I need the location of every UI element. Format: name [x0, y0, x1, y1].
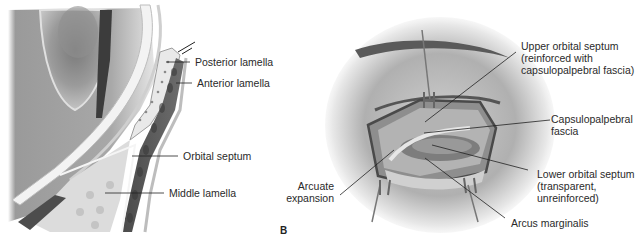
label-upper-orbital-septum: Upper orbital septum (reinforced with ca… [521, 40, 634, 76]
label-capsulopalpebral-fascia: Capsulopalpebral fascia [551, 113, 633, 137]
label-anterior-lamella: Anterior lamella [197, 77, 270, 89]
label-middle-lamella: Middle lamella [169, 187, 236, 199]
eyelid-anatomy-figure: Posterior lamella Anterior lamella Orbit… [0, 0, 639, 240]
label-posterior-lamella: Posterior lamella [195, 56, 273, 68]
panel-a-illustration [0, 0, 639, 240]
label-arcus-marginalis: Arcus marginalis [511, 217, 589, 229]
label-arcuate-expansion: Arcuate expansion [284, 180, 334, 204]
label-orbital-septum: Orbital septum [183, 150, 251, 162]
panel-letter-b: B [280, 225, 287, 236]
label-lower-orbital-septum: Lower orbital septum (transparent, unrei… [537, 168, 634, 204]
